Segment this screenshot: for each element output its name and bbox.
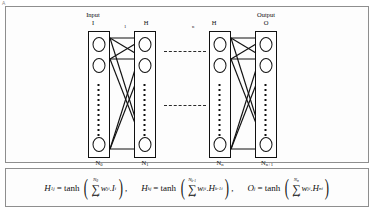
equation-output: Oj = tanh ( Nn ∑ i=1 wji.Hni )	[248, 178, 332, 198]
neuron-output-1	[260, 37, 273, 52]
equation-hidden-k: Hkj = tanh ( Nk-1 ∑ i=1 wji.Hk-1i ) ,	[141, 178, 233, 198]
eq3-summation: Nn ∑ i=1	[292, 178, 301, 198]
eq2-lhs-sup: j	[150, 186, 151, 191]
neuron-input-2	[93, 58, 106, 73]
eq3-lhs-sup: j	[254, 186, 255, 191]
layer-box-hidden-first	[134, 31, 156, 158]
eq1-separator: ,	[125, 183, 127, 193]
neuron-hidden-first-1	[139, 37, 152, 52]
neuron-ellipsis-input	[98, 84, 101, 140]
neuron-ellipsis-output	[265, 84, 268, 140]
layer-count-hidden-first: N1	[120, 159, 170, 167]
connection-edges	[6, 7, 370, 164]
neuron-output-2	[260, 58, 273, 73]
layer-count-output: Nn+1	[242, 159, 292, 167]
equation-hidden-first: H1j = tanh ( N0 ∑ i=1 wji.Ii ) ,	[44, 178, 127, 198]
layer-count-output-sub: n+1	[266, 162, 273, 167]
neuron-hidden-first-last	[139, 137, 152, 152]
neuron-hidden-last-1	[214, 37, 227, 52]
eq3-sum-lower: i=1	[293, 194, 300, 199]
layer-count-input-sub: 0	[100, 162, 102, 167]
eq2-term-sup: i	[221, 186, 222, 191]
ellipsis-dash-upper	[164, 51, 206, 52]
layer-box-output	[255, 31, 277, 158]
layer-label-hidden-first-sub: 1	[124, 24, 126, 29]
layer-label-input: Input I	[63, 11, 123, 26]
eq3-equals: = tanh	[257, 183, 280, 193]
layer-label-output: Output O	[236, 11, 296, 26]
eq1-term-sup: i	[115, 186, 116, 191]
layer-label-output-line2: O	[236, 19, 296, 27]
layer-label-hidden-last-sub-wrap: n	[192, 21, 212, 31]
layer-count-hidden-last-sub: n	[221, 162, 223, 167]
neuron-ellipsis-hidden-first	[144, 84, 147, 140]
equations-panel: H1j = tanh ( N0 ∑ i=1 wji.Ii ) , Hkj = t…	[5, 168, 369, 207]
neuron-input-1	[93, 37, 106, 52]
layer-label-hidden-last-sub: n	[192, 24, 194, 29]
layer-count-hidden-last: Nn	[195, 159, 245, 167]
layer-label-hidden-first-sub-wrap: 1	[124, 21, 144, 31]
neuron-output-last	[260, 137, 273, 152]
equations-row: H1j = tanh ( N0 ∑ i=1 wji.Ii ) , Hkj = t…	[6, 169, 370, 208]
eq2-summation: Nk-1 ∑ i=1	[188, 178, 197, 198]
layer-box-hidden-last	[209, 31, 231, 158]
eq2-separator: ,	[231, 183, 233, 193]
eq2-equals: = tanh	[153, 183, 176, 193]
neuron-input-last	[93, 137, 106, 152]
diagram-stage: Input I N0 H 1	[6, 7, 370, 164]
diagram-panel: Input I N0 H 1	[5, 6, 369, 163]
layer-count-input: N0	[74, 159, 124, 167]
eq3-term-sup: i	[322, 186, 323, 191]
layer-label-input-line1: Input	[86, 11, 100, 18]
neuron-ellipsis-hidden-last	[219, 84, 222, 140]
layer-box-input	[88, 31, 110, 158]
eq1-summation: N0 ∑ i=1	[91, 178, 100, 198]
neuron-hidden-first-2	[139, 58, 152, 73]
eq1-lhs-sup: j	[53, 186, 54, 191]
neuron-hidden-last-last	[214, 137, 227, 152]
neuron-hidden-last-2	[214, 58, 227, 73]
eq1-sum-lower: i=1	[92, 194, 99, 199]
layer-count-hidden-first-sub: 1	[146, 162, 148, 167]
layer-label-input-line2: I	[63, 19, 123, 27]
eq2-sum-lower: i=1	[189, 194, 196, 199]
ellipsis-dash-lower	[164, 105, 206, 106]
eq1-equals: = tanh	[57, 183, 80, 193]
layer-label-output-line1: Output	[257, 11, 275, 18]
